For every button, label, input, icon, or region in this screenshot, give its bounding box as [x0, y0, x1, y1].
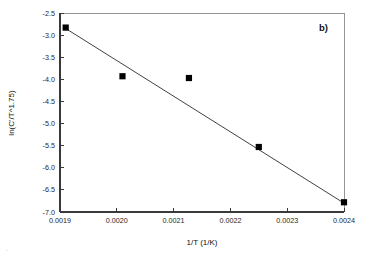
figure-panel-b: 0.00190.00200.00210.00220.00230.0024 -7.…	[0, 0, 370, 260]
x-tick-label: 0.0023	[276, 216, 298, 225]
x-tick-label: 0.0020	[106, 216, 128, 225]
data-point-marker	[119, 73, 125, 79]
y-tick-label: -2.5	[43, 9, 55, 18]
y-tick-label: -3.5	[43, 53, 55, 62]
x-tick-label: 0.0021	[163, 216, 185, 225]
data-point-marker	[63, 24, 69, 30]
x-tick-label: 0.0019	[49, 216, 71, 225]
data-point-marker	[256, 144, 262, 150]
x-axis-ticks: 0.00190.00200.00210.00220.00230.0024	[49, 208, 355, 225]
y-tick-label: -5.5	[43, 141, 55, 150]
y-tick-label: -6.0	[43, 163, 55, 172]
y-tick-label: -5.0	[43, 119, 55, 128]
caption-strip: .	[0, 242, 370, 260]
data-point-marker	[341, 199, 347, 205]
plot-frame	[60, 13, 344, 212]
y-axis-ticks: -7.0-6.5-6.0-5.5-5.0-4.5-4.0-3.5-3.0-2.5	[43, 9, 64, 217]
caption-text: .	[0, 242, 370, 256]
y-tick-label: -4.5	[43, 97, 55, 106]
y-tick-label: -6.5	[43, 185, 55, 194]
arrhenius-scatter-plot: 0.00190.00200.00210.00220.00230.0024 -7.…	[0, 0, 370, 260]
data-point-marker	[186, 75, 192, 81]
y-tick-label: -7.0	[43, 208, 55, 217]
x-tick-label: 0.0024	[333, 216, 355, 225]
y-axis-title: ln(C'/T^1.75)	[7, 90, 16, 136]
y-tick-label: -4.0	[43, 75, 55, 84]
fit-line-path	[66, 28, 344, 203]
x-tick-label: 0.0022	[219, 216, 241, 225]
y-tick-label: -3.0	[43, 31, 55, 40]
trend-line	[66, 28, 344, 203]
panel-label: b)	[319, 22, 328, 33]
